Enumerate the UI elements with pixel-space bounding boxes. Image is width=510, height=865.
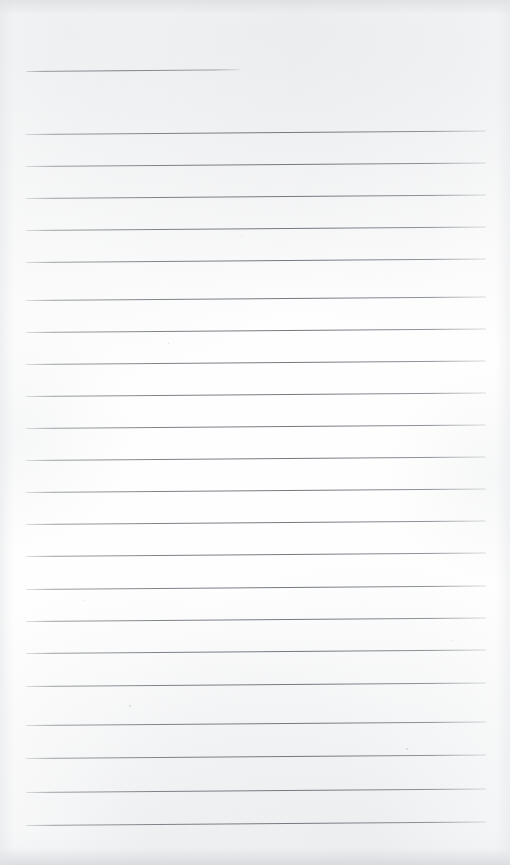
paper-surface	[0, 0, 510, 865]
scanned-page	[0, 0, 510, 865]
